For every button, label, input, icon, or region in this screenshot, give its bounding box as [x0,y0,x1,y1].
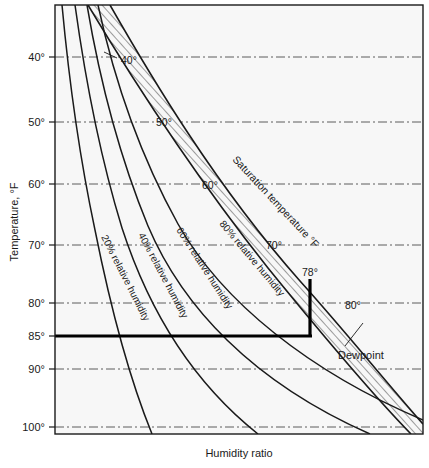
y-tick-label-85: 85° [28,330,45,342]
saturation-label-50: 50° [156,116,172,128]
psychrometric-chart-svg: 40° 50° 60° 70° 80° 85° 90° 100° Tempera… [0,0,429,468]
saturation-label-40: 40° [121,54,137,66]
y-axis-ticks [49,57,55,427]
saturation-label-78: 78° [302,266,318,278]
saturation-label-80: 80° [345,299,361,311]
y-axis-title: Temperature, °F [8,182,20,261]
y-tick-label-90: 90° [28,363,45,375]
y-tick-label-70: 70° [28,239,45,251]
psychrometric-chart: 40° 50° 60° 70° 80° 85° 90° 100° Tempera… [0,0,429,468]
y-tick-label-80: 80° [28,297,45,309]
saturation-label-70: 70° [266,239,282,251]
y-tick-label-60: 60° [28,178,45,190]
y-tick-label-40: 40° [28,51,45,63]
dewpoint-callout-label: Dewpoint [338,349,384,361]
y-tick-label-100: 100° [22,421,45,433]
y-tick-label-50: 50° [28,116,45,128]
x-axis-title: Humidity ratio [205,447,272,459]
saturation-label-60: 60° [202,179,218,191]
